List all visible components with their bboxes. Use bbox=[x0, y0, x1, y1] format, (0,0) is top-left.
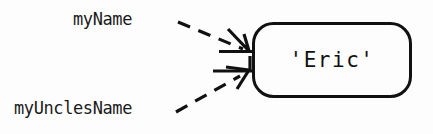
variable-reference-diagram: myName myUnclesName 'Eric' bbox=[0, 0, 433, 134]
myname-arrow bbox=[178, 22, 253, 52]
myname-arrowhead bbox=[228, 29, 249, 51]
variable-label-myname: myName bbox=[73, 11, 132, 28]
variable-label-myunclesname: myUnclesName bbox=[14, 100, 132, 117]
value-box bbox=[254, 24, 411, 97]
myunclesname-arrow bbox=[176, 56, 253, 112]
myunclesname-arrow-dashed-line bbox=[176, 76, 240, 112]
